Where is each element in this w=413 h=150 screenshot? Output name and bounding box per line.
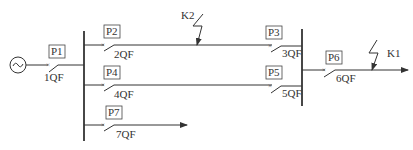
svg-text:×: × xyxy=(268,82,272,90)
fault-label-K2: K2 xyxy=(181,9,194,21)
protection-label-P1: P1 xyxy=(51,45,63,57)
svg-text:×: × xyxy=(268,42,272,50)
breaker-label-1QF: 1QF xyxy=(44,71,64,83)
breaker-label-3QF: 3QF xyxy=(282,47,302,59)
svg-text:×: × xyxy=(101,41,105,49)
breaker-label-6QF: 6QF xyxy=(336,72,356,84)
fault-icon-K2 xyxy=(193,14,203,45)
svg-text:×: × xyxy=(322,66,326,74)
protection-label-P6: P6 xyxy=(328,51,340,63)
protection-label-P2: P2 xyxy=(106,25,118,37)
breaker-4QF: × xyxy=(84,81,114,91)
breaker-label-4QF: 4QF xyxy=(114,88,134,100)
protection-label-P3: P3 xyxy=(268,26,280,38)
svg-text:×: × xyxy=(46,61,50,69)
svg-text:×: × xyxy=(101,81,105,89)
breaker-2QF: × xyxy=(84,41,114,51)
svg-text:×: × xyxy=(101,121,105,129)
fault-icon-K1 xyxy=(369,40,378,70)
protection-label-P5: P5 xyxy=(268,66,280,78)
ac-generator-icon xyxy=(10,57,26,73)
protection-label-P4: P4 xyxy=(106,66,118,78)
breaker-label-5QF: 5QF xyxy=(282,87,302,99)
fault-label-K1: K1 xyxy=(387,47,400,59)
breaker-label-2QF: 2QF xyxy=(114,48,134,60)
breaker-label-7QF: 7QF xyxy=(116,128,136,140)
protection-label-P7: P7 xyxy=(108,106,120,118)
power-system-diagram: × P1 1QF × P2 2QF × P3 3QF K2 × P4 4QF × xyxy=(0,0,413,150)
